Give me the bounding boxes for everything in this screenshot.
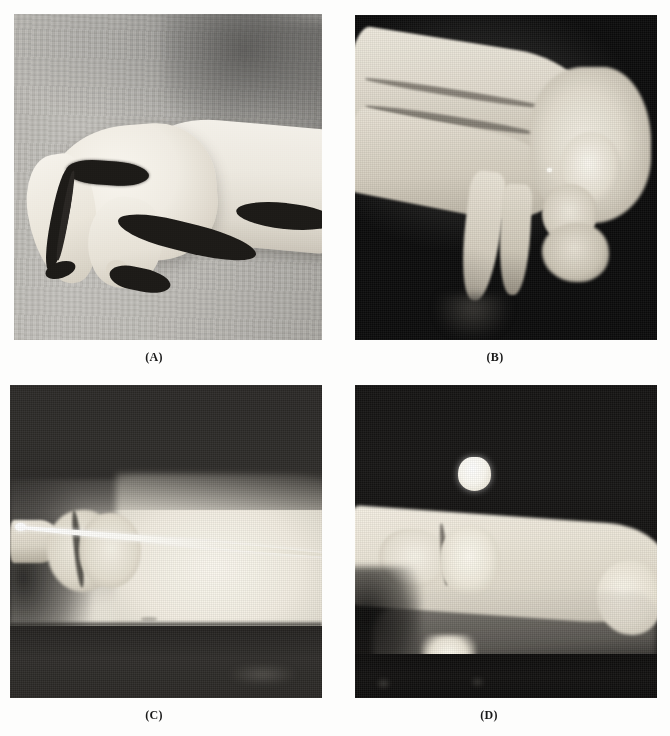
phalanx-head [440,526,500,595]
panel-label-c: (C) [134,708,174,723]
film-border-bar [10,626,322,698]
photo-grain [14,14,322,340]
film-border-bar [355,654,657,698]
figure-panel-d [355,385,657,698]
radiopaque-speck [547,168,552,173]
film-bar-speck-2 [470,677,485,686]
panel-label-d: (D) [469,708,509,723]
figure-sheet: (A) (B) (C) [0,0,670,736]
radiopaque-marker [458,457,491,491]
film-edge-blur [434,295,513,341]
figure-panel-a [14,14,322,340]
panel-label-b: (B) [475,350,515,365]
distal-bone-lobe [542,223,608,282]
kirschner-wire-tip [15,523,26,531]
film-bar-smudge [228,664,297,686]
film-bar-speck-1 [376,678,391,689]
joint-base [79,513,141,588]
figure-panel-b [355,15,657,340]
panel-label-a: (A) [134,350,174,365]
figure-panel-c [10,385,322,698]
